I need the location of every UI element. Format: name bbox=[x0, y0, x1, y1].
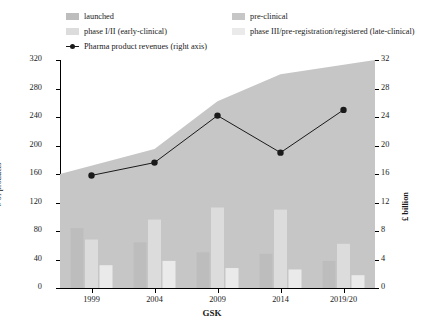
legend-launched[interactable]: launched bbox=[66, 10, 207, 23]
revenue-marker-2009[interactable] bbox=[214, 112, 220, 118]
revenue-marker-2014[interactable] bbox=[277, 149, 283, 155]
legend-label: phase I/II (early-clinical) bbox=[84, 25, 167, 38]
legend-label: pre-clinical bbox=[250, 10, 288, 23]
x-axis-label: GSK bbox=[0, 308, 424, 318]
bar-phase-2004 bbox=[163, 261, 176, 288]
y-axis-right-tick bbox=[375, 203, 379, 204]
y-axis-right-tick bbox=[375, 146, 379, 147]
legend-swatch-icon bbox=[66, 28, 79, 35]
legend-swatch-icon bbox=[66, 13, 79, 20]
y-axis-left-tick bbox=[56, 288, 60, 289]
legend-pre-clinical[interactable]: pre-clinical bbox=[232, 10, 414, 23]
y-axis-left-tick-label: 120 bbox=[30, 197, 42, 206]
y-axis-right-tick-label: 4 bbox=[381, 254, 385, 263]
plot-wrapper: 0408012016020024028032004812162024283219… bbox=[0, 52, 424, 329]
y-axis-right-tick-label: 24 bbox=[381, 111, 389, 120]
revenue-marker-1999[interactable] bbox=[88, 172, 94, 178]
x-axis-tick bbox=[155, 289, 156, 293]
legend-swatch-icon bbox=[232, 28, 245, 35]
x-axis-tick-label: 2009 bbox=[188, 295, 248, 304]
bar-phase-1999 bbox=[100, 265, 113, 288]
y-axis-right-tick bbox=[375, 288, 379, 289]
y-axis-right-tick bbox=[375, 174, 379, 175]
y-axis-right-tick bbox=[375, 260, 379, 261]
y-axis-left-tick-label: 240 bbox=[30, 111, 42, 120]
legend-phase-1-2[interactable]: phase I/II (early-clinical) bbox=[66, 25, 207, 38]
y-axis-right-tick bbox=[375, 231, 379, 232]
y-axis-right-tick-label: 8 bbox=[381, 225, 385, 234]
y-axis-right-tick-label: 32 bbox=[381, 54, 389, 63]
bar-phase-2019/20 bbox=[337, 244, 350, 288]
bar-phase-2014 bbox=[289, 269, 302, 288]
x-axis-tick-label: 2019/20 bbox=[314, 295, 374, 304]
y-axis-right-tick-label: 12 bbox=[381, 197, 389, 206]
y-axis-right-tick bbox=[375, 117, 379, 118]
bar-phase-2004 bbox=[148, 220, 161, 288]
y-axis-right-tick-label: 0 bbox=[381, 282, 385, 291]
legend-column-right: pre-clinicalphase III/pre-registration/r… bbox=[232, 10, 414, 40]
bar-launched-2009 bbox=[197, 252, 210, 288]
y-axis-left-tick-label: 80 bbox=[34, 225, 42, 234]
y-axis-left-tick-label: 0 bbox=[38, 282, 42, 291]
legend-label: launched bbox=[84, 10, 114, 23]
bar-launched-2014 bbox=[260, 254, 273, 288]
y-axis-left-label: # of products bbox=[0, 163, 3, 207]
y-axis-left-tick-label: 200 bbox=[30, 140, 42, 149]
y-axis-right-tick-label: 28 bbox=[381, 83, 389, 92]
y-axis-right-tick-label: 20 bbox=[381, 140, 389, 149]
revenue-marker-2019/20[interactable] bbox=[340, 107, 346, 113]
legend-line-marker-icon bbox=[66, 42, 79, 51]
bar-phase-2009 bbox=[211, 207, 224, 288]
y-axis-right-tick bbox=[375, 89, 379, 90]
bar-phase-1999 bbox=[85, 240, 98, 288]
x-axis-tick bbox=[218, 289, 219, 293]
legend-phase-3[interactable]: phase III/pre-registration/registered (l… bbox=[232, 25, 414, 38]
y-axis-right-label: £ billion bbox=[401, 192, 410, 221]
x-axis-tick bbox=[281, 289, 282, 293]
bar-phase-2009 bbox=[226, 268, 239, 288]
y-axis-left-tick-label: 160 bbox=[30, 168, 42, 177]
x-axis-tick bbox=[344, 289, 345, 293]
x-axis-tick-label: 1999 bbox=[62, 295, 122, 304]
x-axis-tick bbox=[92, 289, 93, 293]
y-axis-right-tick bbox=[375, 60, 379, 61]
plot-area bbox=[60, 60, 375, 288]
chart-root: launchedphase I/II (early-clinical)Pharm… bbox=[0, 0, 424, 329]
x-axis-tick-label: 2004 bbox=[125, 295, 185, 304]
bar-launched-1999 bbox=[71, 228, 84, 288]
revenue-marker-2004[interactable] bbox=[151, 159, 157, 165]
x-axis-tick-label: 2014 bbox=[251, 295, 311, 304]
legend-swatch-icon bbox=[232, 13, 245, 20]
y-axis-left-tick-label: 320 bbox=[30, 54, 42, 63]
legend-label: phase III/pre-registration/registered (l… bbox=[250, 25, 414, 38]
bar-launched-2019/20 bbox=[323, 261, 336, 288]
y-axis-right-tick-label: 16 bbox=[381, 168, 389, 177]
bar-phase-2019/20 bbox=[352, 275, 365, 288]
legend-column-left: launchedphase I/II (early-clinical)Pharm… bbox=[66, 10, 207, 55]
chart-legend: launchedphase I/II (early-clinical)Pharm… bbox=[0, 0, 424, 52]
y-axis-left-tick-label: 280 bbox=[30, 83, 42, 92]
bar-launched-2004 bbox=[134, 242, 147, 288]
chart-canvas bbox=[60, 60, 375, 288]
bar-phase-2014 bbox=[274, 210, 287, 288]
y-axis-left-tick-label: 40 bbox=[34, 254, 42, 263]
